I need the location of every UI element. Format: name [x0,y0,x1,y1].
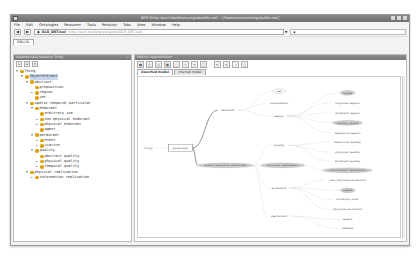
graph-node-set[interactable]: set [273,89,285,94]
graph-node-thing[interactable]: Thing [142,146,153,149]
chevron-down-icon[interactable]: ▼ [285,30,287,34]
class-graph[interactable]: Thingparticularabstractsetpropositionreg… [137,76,401,238]
graph-node-information-realization[interactable]: information realization [323,168,372,173]
graph-edge [238,110,271,116]
hide-all-button[interactable]: ⋏ [182,61,189,68]
graph-node-quality[interactable]: quality [273,144,285,147]
graph-node-non-physical-endurant[interactable]: non-physical endurant [329,179,366,182]
tab-dnl-ol[interactable]: DNL/OL [13,39,34,45]
maximize-icon[interactable] [397,16,401,20]
graph-edge [193,110,218,148]
zoom-in-button[interactable]: ≺ [214,61,221,68]
graph-node-label: region [274,115,285,118]
graph-node-label: non-physical endurant [329,179,366,182]
class-icon [30,102,34,106]
show-all-button[interactable]: ▣ [164,61,171,68]
graph-node-abstract-region[interactable]: abstract region [335,111,360,114]
graph-node-label: particular [173,146,190,149]
graph-node-label: physical endurant [333,208,363,211]
menu-tabs[interactable]: Tabs [123,23,131,27]
graph-edge [253,165,269,188]
graph-node-physical-realization[interactable]: physical realization [261,163,305,168]
add-sibling-button[interactable]: ⇊ [24,61,30,67]
graph-edge [193,148,198,166]
graph-node-physical-endurant[interactable]: physical endurant [333,208,363,211]
class-icon [40,165,44,169]
owlviz-header: OWLViz: ObjectOrEvent [135,55,406,60]
menu-ontologies[interactable]: Ontologies [39,23,58,27]
graph-node-physical-region[interactable]: physical region [335,101,360,104]
app-window: BFO (http://purl.obolibrary.org/obo/bfo.… [10,14,410,246]
window-title: BFO (http://purl.obolibrary.org/obo/bfo.… [141,16,279,20]
minimize-icon[interactable] [391,16,395,20]
delete-class-button[interactable]: ✕ [32,61,38,67]
forward-button[interactable]: ▶ [24,29,31,35]
graph-node-abstract[interactable]: abstract [221,109,235,112]
show-subclasses-button[interactable]: ⋀ [146,61,153,68]
menu-tools[interactable]: Tools [87,23,96,27]
graph-node-temporal-quality[interactable]: temporal quality [334,140,361,143]
graph-node-temporal-region[interactable]: temporal region [335,131,361,134]
graph-node-spatio-temporal[interactable]: spatio-temporal particular [198,163,253,168]
menu-help[interactable]: Help [172,23,180,27]
graph-edge [287,116,330,133]
options-button[interactable]: ▢ [200,61,207,68]
add-subclass-button[interactable]: ↳ [16,61,22,67]
active-ontology-select[interactable]: ◆ OLR_DRT.owl (http://purl.obolibrary.or… [34,29,284,35]
vertical-scrollbar[interactable] [402,76,405,238]
menu-view[interactable]: View [137,23,146,27]
hide-class-button[interactable]: ○ [173,61,180,68]
hierarchy-toolbar: ↳ ⇊ ✕ [14,60,131,68]
graph-canvas[interactable]: Thingparticularabstractsetpropositionreg… [138,77,400,237]
class-icon [40,160,44,164]
layout-button[interactable]: ▯ [241,61,248,68]
menu-window[interactable]: Window [152,23,166,27]
graph-node-particular[interactable]: particular [168,145,192,152]
graph-node-label: stative [342,227,353,230]
graph-node-agent[interactable]: agent [340,188,355,193]
remove-button[interactable]: ✕ [191,61,198,68]
show-superclasses-button[interactable]: ⋁ [155,61,162,68]
graph-node-label: temporal quality [334,140,361,143]
close-icon[interactable] [403,16,407,20]
model-tabs: Asserted model Inferred model [135,69,406,75]
back-button[interactable]: ◀ [14,29,21,35]
graph-node-quale[interactable]: quale [340,91,355,96]
graph-node-physical-quality[interactable]: physical quality [335,150,361,153]
show-class-button[interactable]: ● [137,61,144,68]
panel-options-icon[interactable]: ▭ [126,55,129,60]
menu-edit[interactable]: Edit [26,23,33,27]
class-icon [30,80,34,84]
tab-inferred-model[interactable]: Inferred model [174,69,205,75]
menu-refactor[interactable]: Refactor [102,23,117,27]
graph-node-region[interactable]: region [274,115,285,118]
graph-node-label: abstract quality [335,160,361,163]
graph-node-arbitrary-sum[interactable]: arbitrary sum [337,198,359,201]
class-icon [35,91,39,95]
export-button[interactable]: ⌕ [232,61,239,68]
graph-node-label: quality space [337,121,359,124]
graph-node-abstract-quality[interactable]: abstract quality [335,160,361,163]
graph-node-stative[interactable]: stative [342,227,353,230]
graph-node-endurant[interactable]: endurant [272,186,288,189]
zoom-out-button[interactable]: ≺ [223,61,230,68]
graph-edge [290,216,338,229]
search-input[interactable]: ▪ [290,29,406,35]
graph-node-event[interactable]: event [343,218,353,221]
tab-asserted-model[interactable]: Asserted model [137,69,173,75]
graph-node-perdurant[interactable]: perdurant [271,215,288,218]
graph-node-label: information realization [329,169,366,172]
graph-node-proposition[interactable]: proposition [270,102,288,105]
graph-node-label: quale [343,91,352,94]
graph-node-quality-space[interactable]: quality space [333,121,363,126]
graph-edge [253,145,270,165]
graph-node-label: physical quality [335,150,361,153]
class-icon [30,171,34,175]
class-icon [35,133,39,137]
owlviz-toolbar: ● ⋀ ⋁ ▣ ○ ⋏ ✕ ▢ ≺ ≺ ⌕ ▯ [135,60,406,69]
title-bar[interactable]: BFO (http://purl.obolibrary.org/obo/bfo.… [11,15,409,22]
tree-item[interactable]: ►information realization [16,175,129,180]
class-icon [40,144,44,148]
menu-file[interactable]: File [14,23,20,27]
menu-reasoner[interactable]: Reasoner [64,23,81,27]
